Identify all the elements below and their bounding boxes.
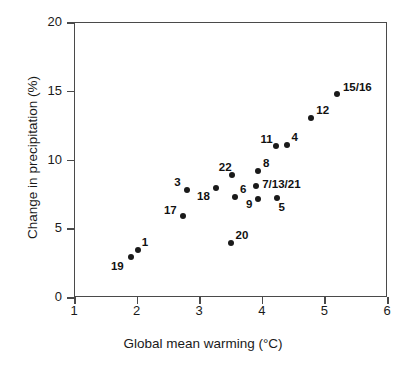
data-point-label: 4 — [291, 131, 297, 143]
data-point-label: 17 — [164, 204, 177, 216]
y-tick-label-0: 0 — [30, 289, 62, 304]
data-point — [228, 240, 234, 246]
x-tick-label-6: 6 — [372, 303, 402, 318]
data-point-label: 6 — [240, 183, 246, 195]
data-point — [180, 213, 186, 219]
data-point-label: 19 — [111, 260, 124, 272]
plot-area-frame — [74, 22, 387, 297]
x-tick-label-2: 2 — [122, 303, 152, 318]
y-tick-0 — [67, 297, 74, 299]
y-tick-5 — [67, 228, 74, 230]
y-tick-20 — [67, 22, 74, 24]
data-point-label: 1 — [142, 236, 148, 248]
y-tick-10 — [67, 160, 74, 162]
data-point-label: 9 — [246, 198, 252, 210]
x-tick-label-3: 3 — [184, 303, 214, 318]
data-point-label: 20 — [236, 229, 249, 241]
data-point-label: 7/13/21 — [262, 178, 300, 190]
y-tick-15 — [67, 91, 74, 93]
data-point-label: 5 — [278, 201, 284, 213]
data-point — [255, 196, 261, 202]
x-axis-title: Global mean warming (°C) — [0, 336, 406, 351]
x-tick-label-4: 4 — [247, 303, 277, 318]
data-point-label: 8 — [263, 157, 269, 169]
data-point-label: 12 — [316, 104, 329, 116]
data-point — [308, 115, 314, 121]
data-point — [135, 247, 141, 253]
data-point-label: 22 — [219, 161, 232, 173]
x-tick-label-5: 5 — [309, 303, 339, 318]
data-point — [213, 185, 219, 191]
y-axis-title: Change in precipitation (%) — [25, 28, 40, 288]
data-point — [273, 143, 279, 149]
data-point-label: 3 — [174, 176, 180, 188]
data-point-label: 18 — [197, 190, 210, 202]
data-point-label: 15/16 — [343, 81, 372, 93]
scatter-chart-figure: 123456 05101520 191173182262097/13/21851… — [0, 0, 406, 366]
data-point — [232, 194, 238, 200]
x-tick-label-1: 1 — [59, 303, 89, 318]
data-point-label: 11 — [261, 133, 273, 145]
data-point — [334, 91, 340, 97]
